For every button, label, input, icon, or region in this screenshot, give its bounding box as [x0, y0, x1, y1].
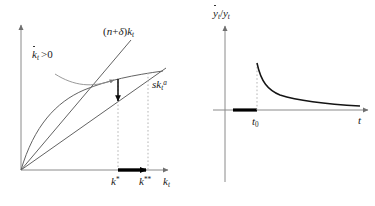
left-panel-axes — [21, 25, 168, 170]
right-y-axis-label: yt/yt — [213, 8, 230, 21]
x-tick-k-star: k* — [111, 176, 120, 187]
figure-container: kt >0 (n+δ)kt skta k* k** kt yt/yt t0 t — [0, 0, 375, 206]
left-x-axis-label: kt — [163, 176, 170, 189]
secondary-line — [21, 68, 166, 170]
x-tick-t-zero: t0 — [252, 116, 259, 129]
growth-rate-decay-curve — [257, 63, 360, 106]
x-tick-k-double-star: k** — [139, 176, 151, 187]
production-curve-label: skta — [152, 79, 167, 92]
right-panel-axes — [213, 26, 368, 182]
kdot-leader-line — [55, 74, 114, 85]
depreciation-line-label: (n+δ)kt — [103, 26, 134, 39]
right-x-axis-label: t — [358, 115, 361, 126]
kdot-positive-label: kt >0 — [32, 49, 53, 62]
figure-canvas — [0, 0, 375, 206]
